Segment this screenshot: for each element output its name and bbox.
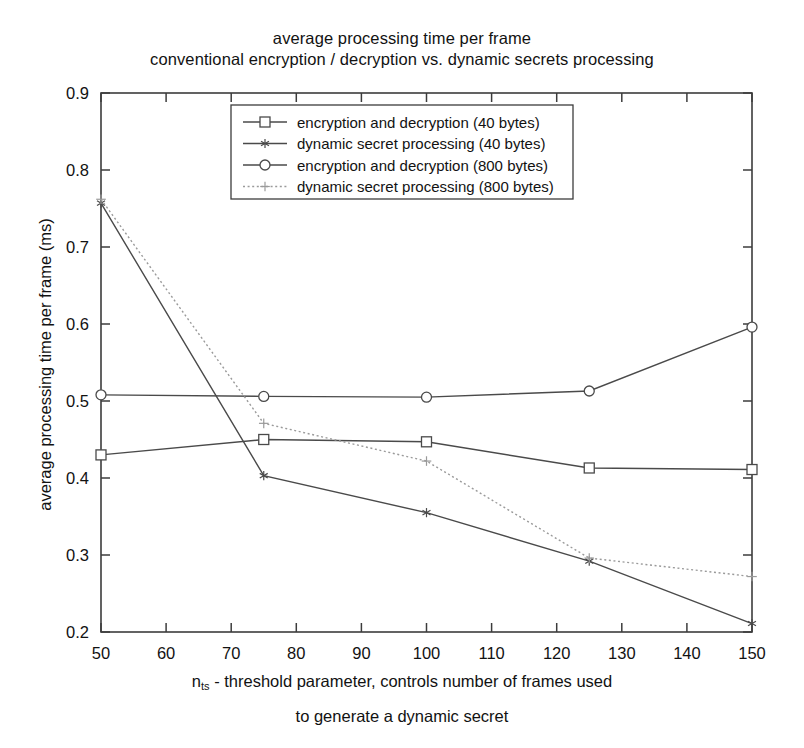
plot-area: 5060708090100110120130140150 0.20.30.40.… [0, 0, 804, 660]
series-line [101, 199, 752, 576]
chart-title-line2: conventional encryption / decryption vs.… [0, 49, 804, 70]
chart-title-line1: average processing time per frame [273, 29, 531, 47]
x-tick-label: 130 [608, 644, 636, 660]
x-axis-subscript: ts [201, 680, 210, 692]
marker-circle [422, 392, 432, 402]
series-line [101, 327, 752, 397]
marker-circle [259, 391, 269, 401]
y-tick-label: 0.7 [66, 238, 89, 256]
x-axis-label: nts - threshold parameter, controls numb… [0, 666, 804, 731]
legend-label: encryption and decryption (800 bytes) [297, 157, 548, 174]
marker-square [584, 463, 594, 473]
y-tick-label: 0.4 [66, 469, 89, 487]
x-tick-label: 150 [738, 644, 766, 660]
data-series [96, 435, 757, 475]
y-tick-label: 0.3 [66, 546, 89, 564]
x-tick-label: 140 [673, 644, 701, 660]
x-tick-label: 110 [478, 644, 504, 660]
x-axis-symbol: n [192, 672, 201, 690]
chart-title: average processing time per frame conven… [0, 28, 804, 70]
y-axis-label: average processing time per frame (ms) [36, 115, 55, 615]
y-tick-label: 0.2 [66, 623, 89, 641]
legend-label: dynamic secret processing (800 bytes) [297, 178, 554, 195]
legend-label: encryption and decryption (40 bytes) [297, 114, 540, 131]
marker-square [422, 437, 432, 447]
x-tick-label: 80 [287, 644, 305, 660]
y-tick-label: 0.9 [66, 84, 89, 102]
y-tick-label: 0.5 [66, 392, 89, 410]
x-axis-label-line1: nts - threshold parameter, controls numb… [192, 672, 612, 690]
series-line [101, 203, 752, 623]
data-series-layer [96, 194, 757, 628]
data-series [97, 199, 756, 629]
marker-circle [747, 322, 757, 332]
x-tick-label: 60 [157, 644, 175, 660]
chart-legend: encryption and decryption (40 bytes)dyna… [231, 105, 573, 199]
marker-square [96, 450, 106, 460]
chart-figure: average processing time per frame conven… [0, 0, 804, 748]
x-tick-label: 90 [352, 644, 370, 660]
marker-circle [96, 390, 106, 400]
x-axis-label-rest: - threshold parameter, controls number o… [210, 672, 613, 690]
x-tick-label: 100 [413, 644, 441, 660]
x-tick-label: 70 [222, 644, 240, 660]
marker-circle [260, 160, 270, 170]
marker-square [260, 117, 270, 127]
y-tick-label: 0.8 [66, 161, 89, 179]
y-tick-label: 0.6 [66, 315, 89, 333]
marker-circle [584, 386, 594, 396]
data-series [96, 194, 757, 581]
x-tick-label: 50 [92, 644, 110, 660]
marker-square [259, 435, 269, 445]
marker-square [747, 465, 757, 475]
legend-label: dynamic secret processing (40 bytes) [297, 135, 545, 152]
x-axis-label-line2: to generate a dynamic secret [0, 701, 804, 731]
x-tick-label: 120 [543, 644, 571, 660]
